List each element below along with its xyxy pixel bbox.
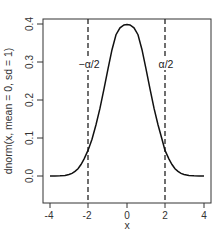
annotation-right: α/2 [159,58,174,70]
density-curve [50,24,204,176]
y-axis [37,24,43,176]
y-tick-label: 0.1 [24,131,35,145]
x-tick-label: -2 [83,210,92,221]
x-axis [50,203,204,208]
x-tick-label: 4 [201,210,207,221]
normal-density-chart: 0.0 0.1 0.2 0.3 0.4 -4 -2 0 2 4 x dnorm(… [0,0,221,230]
x-tick-label: -4 [45,210,54,221]
y-tick-label: 0.2 [24,93,35,107]
y-tick-label: 0.0 [24,169,35,183]
x-tick-label: 2 [162,210,168,221]
y-tick-label: 0.4 [24,17,35,31]
y-axis-title: dnorm(x, mean = 0, sd = 1) [2,48,14,175]
y-tick-labels: 0.0 0.1 0.2 0.3 0.4 [24,17,35,183]
y-tick-label: 0.3 [24,55,35,69]
annotation-left: −α/2 [79,58,100,70]
x-axis-title: x [124,219,130,230]
